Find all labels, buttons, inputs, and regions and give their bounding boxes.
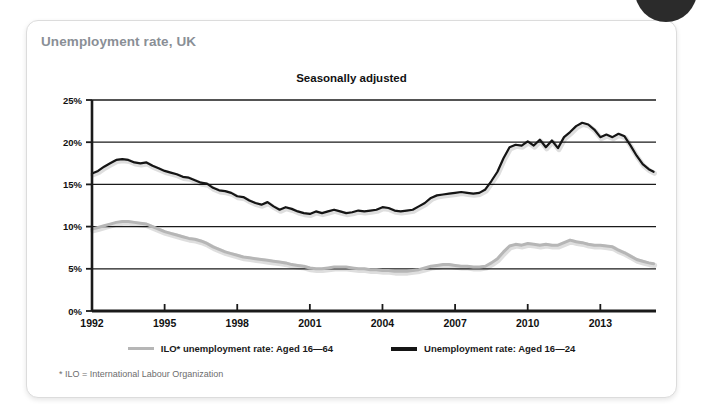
x-tick-label: 2007 <box>443 317 467 329</box>
chart-card: Unemployment rate, UK Seasonally adjuste… <box>26 20 677 398</box>
y-tick-label: 5% <box>68 263 82 274</box>
series-shadow <box>93 124 655 215</box>
footnote: * ILO = International Labour Organizatio… <box>59 369 223 379</box>
y-tick-label: 10% <box>63 221 83 232</box>
x-tick-label: 2001 <box>298 317 322 329</box>
series-shadow <box>93 223 655 273</box>
x-tick-label: 1998 <box>226 317 250 329</box>
data-series-group <box>92 123 654 273</box>
decorative-corner-blob <box>635 0 697 22</box>
legend-item-unemployment-16-24: Unemployment rate: Aged 16—24 <box>391 343 575 354</box>
legend-swatch-black-icon <box>391 347 417 351</box>
legend-label-ilo-16-64: ILO* unemployment rate: Aged 16—64 <box>161 343 333 354</box>
x-tick-label: 1992 <box>80 317 104 329</box>
chart-legend: ILO* unemployment rate: Aged 16—64 Unemp… <box>27 343 676 354</box>
y-tick-label: 20% <box>63 137 83 148</box>
series-line <box>92 222 654 272</box>
x-tick-label: 2004 <box>371 317 395 329</box>
y-tick-label: 0% <box>68 306 82 317</box>
y-tick-label: 25% <box>63 95 83 106</box>
x-tick-label: 2013 <box>589 317 613 329</box>
y-axis-tick-labels: 0%5%10%15%20%25% <box>63 95 83 317</box>
y-tick-label: 15% <box>63 179 83 190</box>
x-tick-label: 2010 <box>516 317 540 329</box>
legend-swatch-gray-icon <box>128 347 154 350</box>
x-axis-tick-labels: 19921995199820012004200720102013 <box>80 317 612 329</box>
legend-item-ilo-16-64: ILO* unemployment rate: Aged 16—64 <box>128 343 333 354</box>
legend-label-unemployment-16-24: Unemployment rate: Aged 16—24 <box>424 343 575 354</box>
x-tick-label: 1995 <box>153 317 177 329</box>
